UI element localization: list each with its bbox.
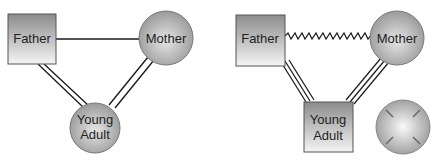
edge-mother-youngadult-double	[109, 57, 154, 108]
node-father-label: Father	[13, 31, 51, 46]
left-genogram: Father Mother Young Adult	[8, 11, 193, 153]
node-young-adult-label-line1: Young	[310, 112, 346, 127]
node-mother: Mother	[370, 11, 424, 65]
edge-father-youngadult-triple	[281, 60, 314, 102]
node-young-adult: Young Adult	[304, 102, 353, 152]
node-young-adult-label-line2: Adult	[80, 127, 110, 142]
node-mother-label: Mother	[146, 31, 187, 46]
node-young-adult: Young Adult	[70, 103, 120, 153]
node-father: Father	[236, 15, 285, 66]
edge-mother-youngadult-triple	[346, 58, 389, 104]
node-mother: Mother	[139, 11, 193, 65]
node-father: Father	[8, 14, 56, 64]
node-mother-label: Mother	[377, 31, 418, 46]
node-young-adult-label-line2: Adult	[313, 128, 343, 143]
genogram-figure: Father Mother Young Adult	[0, 0, 437, 164]
genogram-canvas: Father Mother Young Adult	[0, 0, 437, 164]
node-unlabeled-circle	[376, 100, 430, 154]
edge-father-mother-zigzag	[285, 33, 371, 39]
node-young-adult-label-line1: Young	[77, 112, 113, 127]
right-genogram: Father Mother Young Adult	[236, 11, 430, 154]
node-father-label: Father	[241, 31, 279, 46]
edge-father-youngadult-double	[38, 64, 89, 108]
